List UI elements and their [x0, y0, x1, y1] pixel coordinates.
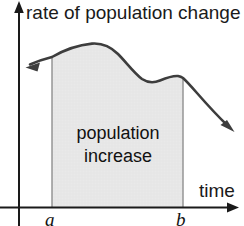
x-axis-label: time	[199, 181, 235, 200]
region-label-line-1: population	[46, 124, 190, 142]
x-tick-label-a: a	[45, 210, 55, 226]
chart-title: rate of population change	[26, 3, 240, 22]
region-label-line-2: increase	[46, 147, 190, 165]
x-axis-arrowhead-icon	[227, 202, 239, 212]
y-axis-arrowhead-icon	[14, 1, 24, 13]
x-tick-label-b: b	[176, 210, 186, 226]
figure-population-change: rate of population change time populatio…	[0, 0, 244, 226]
